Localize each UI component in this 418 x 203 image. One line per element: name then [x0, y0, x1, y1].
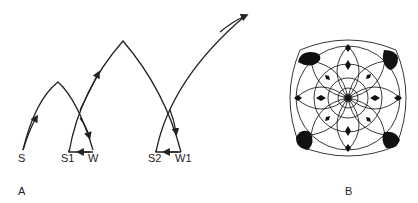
- trajectory-s2-up: [156, 16, 245, 152]
- trajectory-s-to-w: [23, 82, 93, 150]
- node-label-w1: W1: [175, 152, 192, 164]
- trajectory-s1-to-w1: [69, 41, 181, 152]
- diagram-a: [0, 0, 418, 203]
- rosette-leaves: [294, 44, 402, 152]
- panel-label-b: B: [345, 185, 352, 197]
- panel-label-a: A: [18, 185, 25, 197]
- node-label-w: W: [88, 152, 98, 164]
- node-label-s: S: [18, 152, 25, 164]
- node-label-s2: S2: [148, 152, 161, 164]
- node-label-s1: S1: [61, 152, 74, 164]
